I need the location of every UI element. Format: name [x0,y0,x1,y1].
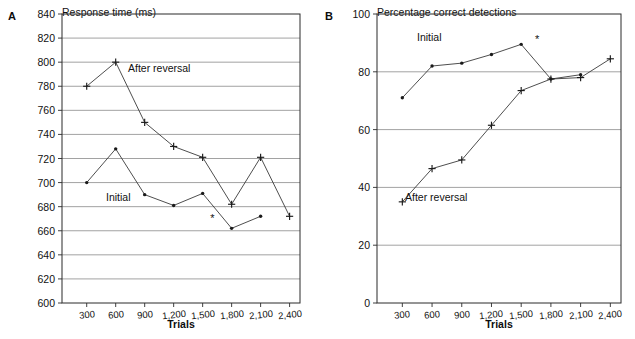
x-tick-label: 300 [394,308,411,321]
data-point-marker [519,43,522,46]
significance-asterisk: * [210,212,215,224]
x-tick-label: 600 [424,308,441,321]
y-tick-label: 780 [0,80,55,92]
y-tick-label: 840 [0,8,55,20]
data-point-marker [259,215,262,218]
y-tick-label: 100 [317,8,370,20]
data-point-marker [460,61,463,64]
panel-a-label-after-reversal: After reversal [128,62,190,74]
data-point-marker [201,192,204,195]
y-tick-label: 660 [0,225,55,237]
panel-b-plot: * [317,0,635,339]
y-tick-label: 640 [0,249,55,261]
y-tick-label: 680 [0,201,55,213]
panel-a-label-initial: Initial [106,191,131,203]
y-tick-label: 720 [0,153,55,165]
y-tick-label: 40 [317,181,370,193]
y-tick-label: 20 [317,239,370,251]
data-point-marker [401,96,404,99]
panel-b-label-initial: Initial [417,31,442,43]
data-point-marker [85,181,88,184]
data-point-marker [114,147,117,150]
y-tick-label: 60 [317,124,370,136]
y-tick-label: 820 [0,32,55,44]
y-tick-label: 600 [0,297,55,309]
panel-b: B Percentage correct detections Trials *… [317,0,635,339]
y-tick-label: 620 [0,273,55,285]
x-tick-label: 600 [107,308,124,321]
y-tick-label: 800 [0,56,55,68]
data-point-marker [430,64,433,67]
x-tick-label: 900 [136,308,153,321]
y-tick-label: 80 [317,66,370,78]
panel-b-label-after-reversal: After reversal [405,191,467,203]
significance-asterisk: * [535,33,540,45]
y-tick-label: 740 [0,128,55,140]
y-tick-label: 700 [0,177,55,189]
panel-a-plot: * [0,0,318,339]
y-tick-label: 0 [317,297,370,309]
data-point-marker [230,227,233,230]
x-tick-label: 300 [78,308,95,321]
y-tick-label: 760 [0,104,55,116]
data-point-marker [143,193,146,196]
figure-container: A Response time (ms) Trials * 6006206406… [0,0,635,339]
x-tick-label: 900 [453,308,470,321]
data-point-marker [172,204,175,207]
data-point-marker [490,53,493,56]
panel-a: A Response time (ms) Trials * 6006206406… [0,0,318,339]
